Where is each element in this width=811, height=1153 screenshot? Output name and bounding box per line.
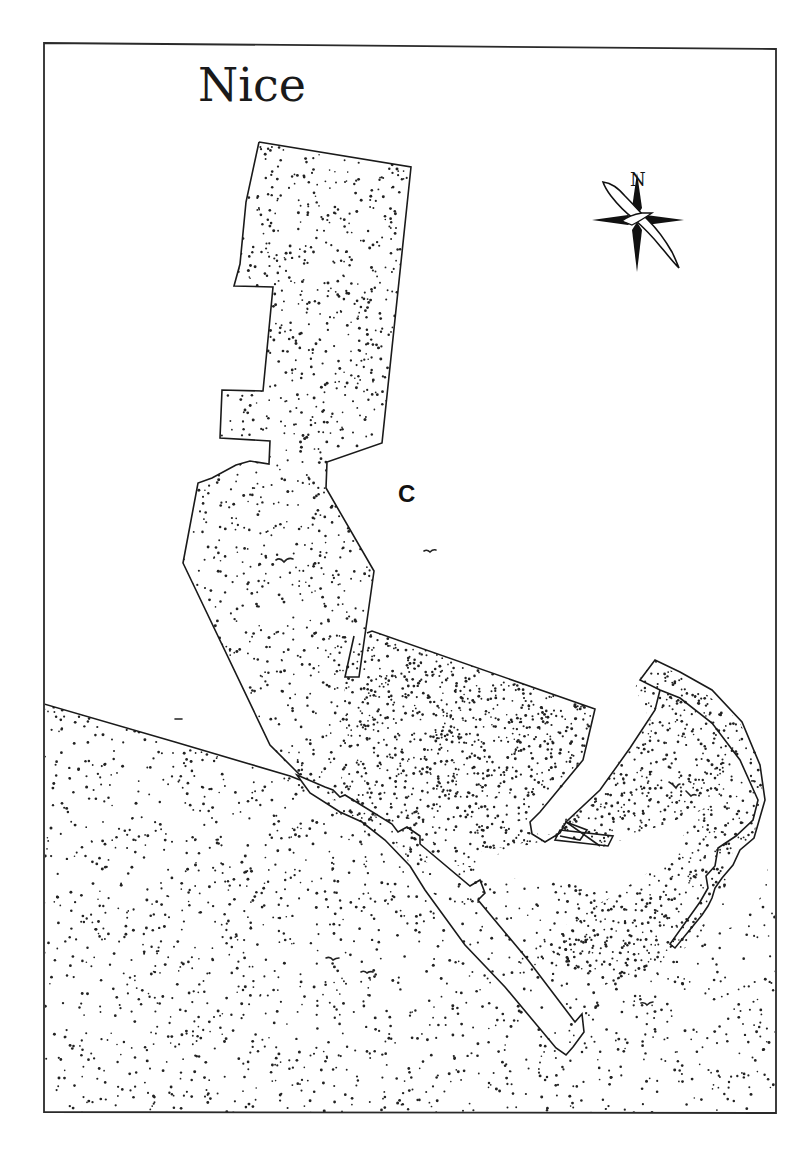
bird-icon: [276, 558, 293, 562]
bird-icon: [686, 791, 696, 796]
bird-icons: [175, 550, 696, 1005]
compass-rose-icon: N: [592, 169, 684, 272]
western-shore-line: [44, 704, 300, 780]
compass-north-label: N: [630, 169, 646, 190]
bird-icon: [361, 971, 373, 973]
bird-icon: [326, 957, 339, 960]
map-frame: [44, 43, 776, 1113]
port-basin-landmass: [367, 631, 595, 842]
bird-icon: [669, 782, 680, 788]
map-title: Nice: [198, 62, 306, 108]
bird-icon: [424, 550, 436, 552]
map-canvas: N: [0, 0, 811, 1153]
promenade-quay: [297, 775, 584, 1055]
western-shore-stipple: [43, 699, 777, 1114]
area-label-c: C: [398, 482, 415, 506]
main-jetty-landmass: [183, 142, 411, 775]
eastern-headland: [566, 660, 765, 948]
